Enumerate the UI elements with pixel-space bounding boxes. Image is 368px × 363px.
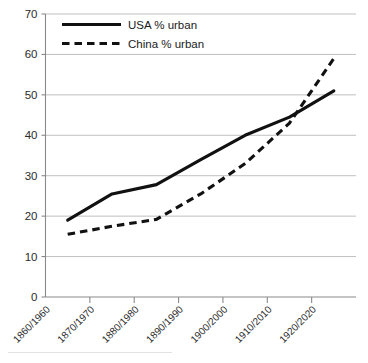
chart-canvas: 010203040506070 1860/19601870/19701880/1… xyxy=(0,0,368,363)
y-axis-tick-label: 50 xyxy=(25,89,38,101)
line-chart: 010203040506070 1860/19601870/19701880/1… xyxy=(0,0,368,363)
legend-label-usa: USA % urban xyxy=(128,19,197,31)
y-axis-tick-label: 70 xyxy=(25,8,38,20)
y-axis-tick-label: 30 xyxy=(25,170,38,182)
y-axis-tick-label: 0 xyxy=(31,291,37,303)
legend-label-china: China % urban xyxy=(128,38,204,50)
y-axis-tick-label: 10 xyxy=(25,251,38,263)
y-axis-tick-label: 60 xyxy=(25,48,38,60)
y-axis-tick-label: 40 xyxy=(25,129,38,141)
y-axis-tick-label: 20 xyxy=(25,210,38,222)
